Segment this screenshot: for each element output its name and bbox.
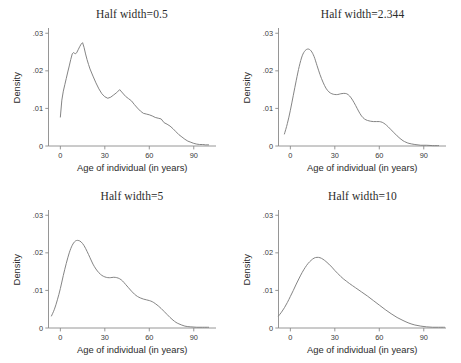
svg-text:.03: .03	[263, 29, 273, 38]
svg-text:.01: .01	[33, 286, 43, 295]
svg-text:90: 90	[420, 151, 428, 160]
svg-text:Density: Density	[241, 72, 252, 104]
svg-text:.03: .03	[263, 211, 273, 220]
svg-text:0: 0	[269, 324, 273, 333]
svg-text:.01: .01	[263, 104, 273, 113]
svg-text:0: 0	[269, 142, 273, 151]
svg-text:Age of individual (in years): Age of individual (in years)	[77, 344, 187, 355]
kernel-density-figure: Half width=0.5 0.01.02.030306090Age of i…	[0, 0, 461, 363]
svg-text:.02: .02	[263, 66, 273, 75]
svg-text:Density: Density	[11, 72, 22, 104]
plot-area-3: 0.01.02.030306090Age of individual (in y…	[230, 182, 461, 363]
svg-text:0: 0	[58, 151, 62, 160]
plot-area-2: 0.01.02.030306090Age of individual (in y…	[0, 182, 230, 363]
svg-text:0: 0	[288, 333, 292, 342]
svg-text:60: 60	[145, 151, 153, 160]
svg-text:30: 30	[101, 151, 109, 160]
svg-text:.02: .02	[263, 248, 273, 257]
svg-text:.02: .02	[33, 248, 43, 257]
svg-text:Age of individual (in years): Age of individual (in years)	[77, 162, 187, 173]
panel-half-width-0-5: Half width=0.5 0.01.02.030306090Age of i…	[0, 0, 230, 182]
svg-text:Age of individual (in years): Age of individual (in years)	[307, 162, 417, 173]
svg-text:.01: .01	[33, 104, 43, 113]
svg-text:0: 0	[288, 151, 292, 160]
panel-half-width-10: Half width=10 0.01.02.030306090Age of in…	[230, 182, 461, 363]
svg-text:Density: Density	[241, 254, 252, 286]
svg-text:Age of individual (in years): Age of individual (in years)	[307, 344, 417, 355]
svg-text:.03: .03	[33, 29, 43, 38]
svg-text:.03: .03	[33, 211, 43, 220]
svg-text:60: 60	[145, 333, 153, 342]
svg-text:0: 0	[58, 333, 62, 342]
panel-half-width-5: Half width=5 0.01.02.030306090Age of ind…	[0, 182, 230, 363]
svg-text:60: 60	[375, 151, 383, 160]
svg-text:30: 30	[101, 333, 109, 342]
svg-text:0: 0	[39, 324, 43, 333]
svg-text:30: 30	[331, 333, 339, 342]
svg-text:60: 60	[375, 333, 383, 342]
svg-text:.02: .02	[33, 66, 43, 75]
svg-text:.01: .01	[263, 286, 273, 295]
svg-text:0: 0	[39, 142, 43, 151]
plot-area-1: 0.01.02.030306090Age of individual (in y…	[230, 0, 461, 182]
svg-text:30: 30	[331, 151, 339, 160]
svg-text:90: 90	[420, 333, 428, 342]
panel-half-width-2-344: Half width=2.344 0.01.02.030306090Age of…	[230, 0, 461, 182]
svg-text:90: 90	[190, 151, 198, 160]
svg-text:Density: Density	[11, 254, 22, 286]
plot-area-0: 0.01.02.030306090Age of individual (in y…	[0, 0, 230, 182]
svg-text:90: 90	[190, 333, 198, 342]
